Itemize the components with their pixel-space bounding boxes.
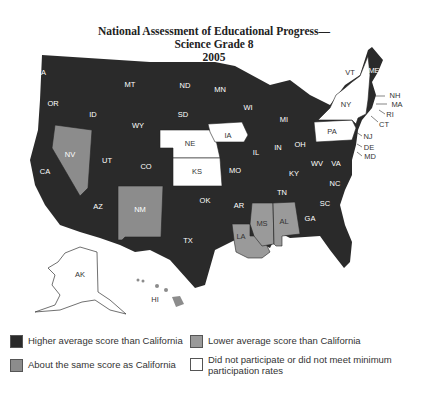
state-hi <box>172 296 184 307</box>
legend-item-higher: Higher average score than California <box>10 335 183 348</box>
label-al: AL <box>279 217 288 226</box>
label-ar: AR <box>234 201 245 210</box>
label-ca: CA <box>40 167 50 176</box>
swatch-same <box>10 359 23 372</box>
label-sc: SC <box>320 199 331 208</box>
label-ct: CT <box>379 120 389 129</box>
label-md: MD <box>364 152 376 161</box>
label-fl: FL <box>329 259 338 268</box>
label-ga: GA <box>305 214 316 223</box>
legend-item-same: About the same score as California <box>10 359 176 372</box>
label-ia: IA <box>224 131 231 140</box>
legend-item-lower: Lower average score than California <box>190 335 361 348</box>
label-va: VA <box>331 159 340 168</box>
label-de: DE <box>364 143 374 152</box>
label-ok: OK <box>200 196 211 205</box>
label-ma: MA <box>391 100 402 109</box>
label-or: OR <box>47 99 59 108</box>
swatch-not-participating <box>190 358 203 371</box>
label-wv: WV <box>311 159 323 168</box>
swatch-higher <box>10 335 23 348</box>
label-wy: WY <box>132 121 144 130</box>
state-ak <box>35 247 126 314</box>
label-ny: NY <box>341 100 351 109</box>
swatch-lower <box>190 335 203 348</box>
label-pa: PA <box>327 127 336 136</box>
label-ne: NE <box>185 139 195 148</box>
label-nd: ND <box>180 81 191 90</box>
label-tx: TX <box>183 236 193 245</box>
label-nv: NV <box>65 150 75 159</box>
label-ri: RI <box>386 110 394 119</box>
label-il: IL <box>253 148 259 157</box>
label-az: AZ <box>93 202 103 211</box>
label-nj: NJ <box>363 132 372 141</box>
label-vt: VT <box>345 68 355 77</box>
label-wi: WI <box>243 103 252 112</box>
label-wa: WA <box>34 68 46 77</box>
label-sd: SD <box>178 110 189 119</box>
label-mt: MT <box>125 80 136 89</box>
label-hi: HI <box>151 295 159 304</box>
label-id: ID <box>89 110 97 119</box>
label-co: CO <box>140 162 151 171</box>
label-ak: AK <box>75 270 85 279</box>
label-mo: MO <box>229 166 241 175</box>
label-nc: NC <box>330 179 341 188</box>
label-ms: MS <box>256 219 267 228</box>
legend-item-not-participating: Did not participate or did not meet mini… <box>190 354 415 376</box>
label-mi: MI <box>280 115 288 124</box>
label-ks: KS <box>192 167 202 176</box>
label-la: LA <box>236 232 245 241</box>
label-me: ME <box>368 66 379 75</box>
label-in: IN <box>274 143 282 152</box>
label-oh: OH <box>294 140 305 149</box>
label-ky: KY <box>289 169 299 178</box>
label-ut: UT <box>102 156 112 165</box>
label-tn: TN <box>277 188 287 197</box>
label-nm: NM <box>134 205 146 214</box>
label-mn: MN <box>214 85 226 94</box>
us-map: WA OR CA NV ID MT WY UT CO AZ NM ND SD N… <box>0 0 428 330</box>
state-ny-vt <box>318 56 370 124</box>
label-nh: NH <box>390 91 401 100</box>
